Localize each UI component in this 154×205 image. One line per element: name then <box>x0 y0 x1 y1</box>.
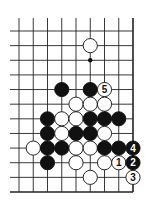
black-stone <box>97 141 111 155</box>
black-stone-disc <box>69 126 83 140</box>
move-number-label: 1 <box>116 157 122 168</box>
board-marks <box>88 58 92 62</box>
black-stone <box>55 141 69 155</box>
black-stone <box>83 82 97 96</box>
black-stone-disc <box>112 141 126 155</box>
white-stone <box>83 170 97 184</box>
point-marker-dot <box>88 58 92 62</box>
black-stone <box>40 126 54 140</box>
white-stone-disc <box>69 97 83 111</box>
black-stone <box>55 82 69 96</box>
black-stone-disc <box>83 82 97 96</box>
white-stone <box>69 97 83 111</box>
white-stone-disc <box>97 97 111 111</box>
black-stone <box>83 126 97 140</box>
white-stone-disc <box>26 141 40 155</box>
white-stone <box>69 141 83 155</box>
black-stone <box>40 112 54 126</box>
white-stone-disc <box>55 126 69 140</box>
white-stone-disc <box>69 156 83 170</box>
white-stone <box>83 141 97 155</box>
move-1-white-stone: 1 <box>112 156 126 170</box>
white-stone-disc <box>97 156 111 170</box>
white-stone-disc <box>55 112 69 126</box>
white-stone <box>83 97 97 111</box>
black-stone-disc <box>55 141 69 155</box>
black-stone-disc <box>97 112 111 126</box>
white-stone <box>83 39 97 53</box>
black-stone-disc <box>40 156 54 170</box>
move-3-white-stone: 3 <box>126 170 140 184</box>
move-2-black-stone: 2 <box>126 156 140 170</box>
black-stone <box>83 112 97 126</box>
black-stone-disc <box>40 126 54 140</box>
black-stone <box>40 156 54 170</box>
white-stone-disc <box>69 141 83 155</box>
black-stone <box>112 112 126 126</box>
black-stone <box>69 126 83 140</box>
black-stone-disc <box>83 112 97 126</box>
white-stone-disc <box>69 112 83 126</box>
black-stone <box>112 141 126 155</box>
white-stone <box>97 97 111 111</box>
move-number-label: 3 <box>130 172 136 183</box>
black-stone-disc <box>55 82 69 96</box>
move-number-label: 4 <box>130 143 136 154</box>
white-stone-disc <box>97 126 111 140</box>
white-stone <box>97 126 111 140</box>
move-number-label: 5 <box>102 84 108 95</box>
black-stone <box>97 112 111 126</box>
move-5-white-stone: 5 <box>97 82 111 96</box>
white-stone <box>69 112 83 126</box>
move-4-black-stone: 4 <box>126 141 140 155</box>
go-board: 54123 <box>0 0 154 205</box>
white-stone-disc <box>83 39 97 53</box>
white-stone <box>55 126 69 140</box>
black-stone-disc <box>112 112 126 126</box>
move-number-label: 2 <box>130 157 136 168</box>
white-stone <box>26 141 40 155</box>
white-stone <box>55 112 69 126</box>
white-stone <box>97 156 111 170</box>
black-stone-disc <box>40 112 54 126</box>
black-stone <box>40 141 54 155</box>
white-stone <box>69 156 83 170</box>
black-stone-disc <box>97 141 111 155</box>
black-stone-disc <box>40 141 54 155</box>
white-stone-disc <box>83 97 97 111</box>
white-stone-disc <box>83 170 97 184</box>
white-stone-disc <box>83 141 97 155</box>
black-stone-disc <box>83 126 97 140</box>
